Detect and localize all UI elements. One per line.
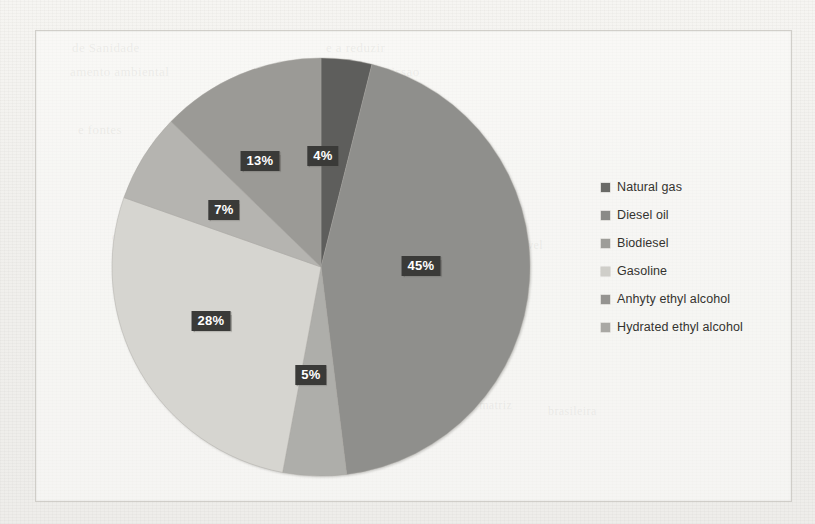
- legend-item-label: Natural gas: [617, 180, 682, 194]
- legend-item-label: Hydrated ethyl alcohol: [617, 320, 743, 334]
- legend-item[interactable]: Natural gas: [601, 173, 815, 201]
- chart-legend: Natural gasDiesel oilBiodieselGasolineAn…: [601, 173, 815, 341]
- pie-data-label: 7%: [208, 200, 239, 220]
- legend-item-label: Gasoline: [617, 264, 667, 278]
- pie-data-label: 4%: [307, 146, 338, 166]
- pie-data-label: 5%: [295, 365, 326, 385]
- legend-color-swatch-icon: [601, 183, 610, 192]
- legend-item[interactable]: Anhyty ethyl alcohol: [601, 285, 815, 313]
- pie-slice-group: [112, 58, 530, 476]
- legend-color-swatch-icon: [601, 211, 610, 220]
- legend-item[interactable]: Diesel oil: [601, 201, 815, 229]
- legend-item-label: Biodiesel: [617, 236, 669, 250]
- legend-color-swatch-icon: [601, 239, 610, 248]
- legend-item[interactable]: Gasoline: [601, 257, 815, 285]
- legend-color-swatch-icon: [601, 295, 610, 304]
- pie-chart: [110, 56, 532, 478]
- pie-svg: [110, 56, 532, 478]
- pie-data-label: 28%: [192, 311, 231, 331]
- legend-item[interactable]: Hydrated ethyl alcohol: [601, 313, 815, 341]
- legend-item[interactable]: Biodiesel: [601, 229, 815, 257]
- legend-color-swatch-icon: [601, 267, 610, 276]
- pie-data-label: 13%: [241, 151, 280, 171]
- chart-frame: 4%13%45%7%28%5% Natural gasDiesel oilBio…: [35, 30, 792, 502]
- legend-item-label: Anhyty ethyl alcohol: [617, 292, 730, 306]
- legend-color-swatch-icon: [601, 323, 610, 332]
- pie-data-label: 45%: [402, 256, 441, 276]
- legend-item-label: Diesel oil: [617, 208, 669, 222]
